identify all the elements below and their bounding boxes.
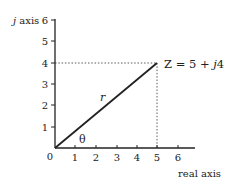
- x-axis-label: real axis: [178, 168, 221, 179]
- y-tick-label-2: 2: [42, 100, 48, 111]
- y-tick-label-5: 5: [42, 36, 48, 47]
- point-label: Z = 5 + j4: [164, 57, 224, 71]
- y-tick-label-3: 3: [42, 79, 48, 90]
- y-tick-label-1: 1: [42, 122, 48, 133]
- y-axis-label-rest: axis: [16, 15, 39, 26]
- x-tick-label-6: 6: [175, 152, 181, 163]
- y-tick-label-6: 6: [42, 15, 48, 26]
- x-tick-label-2: 2: [93, 152, 99, 163]
- vector-label-r: r: [100, 91, 106, 104]
- point-label-suffix: 4: [217, 57, 224, 71]
- point-label-prefix: Z = 5 +: [164, 57, 213, 71]
- y-axis-label: j axis: [11, 15, 39, 26]
- complex-plane-diagram: 1 2 3 4 5 6 0 1 2 3 4 5 6 j axis real ax…: [0, 0, 229, 185]
- angle-label-theta: θ: [79, 133, 86, 146]
- x-tick-label-1: 1: [72, 152, 78, 163]
- x-tick-label-5: 5: [154, 152, 160, 163]
- origin-label: 0: [47, 151, 53, 162]
- x-tick-label-4: 4: [134, 152, 140, 163]
- phasor-vector: [55, 63, 157, 148]
- y-tick-label-4: 4: [42, 58, 48, 69]
- x-tick-label-3: 3: [114, 152, 120, 163]
